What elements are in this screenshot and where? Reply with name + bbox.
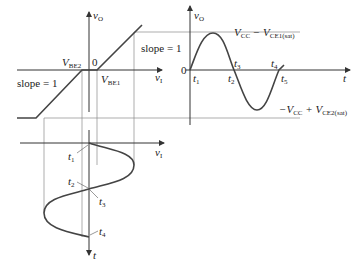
diagram-canvas [0,0,360,269]
transfer-origin-label: 0 [92,57,98,68]
slope-lower-label: slope = 1 [17,78,57,89]
output-vo-label: vO [194,10,204,23]
output-t-label: t [343,73,346,84]
output-t1-label: t1 [193,73,200,86]
slope-upper-label: slope = 1 [141,43,181,54]
input-t-axis-label: t [93,250,96,261]
output-waveform [190,33,284,110]
input-vi-label: vI [155,147,162,160]
output-t2-label: t2 [228,73,235,86]
transfer-vi-label: vI [155,72,162,85]
output-t5-label: t5 [281,73,288,86]
transfer-curve [17,25,142,118]
output-t4-label: t4 [271,58,278,71]
output-origin-label: 0 [181,65,187,76]
vbe2-label: VBE2 [62,57,81,70]
input-t4-label: t4 [99,226,106,239]
class-b-waveform-diagram: vO 0 VBE2 VBE1 vI slope = 1 slope = 1 vO… [0,0,360,269]
pos-saturation-label: VCC − VCE1(sat) [234,27,295,40]
input-t3-label: t3 [99,196,106,209]
input-axes [20,130,164,255]
projection-guides [44,32,300,237]
input-t2-label: t2 [68,176,75,189]
neg-saturation-label: −VCC + VCE2(sat) [279,104,347,117]
transfer-vo-label: vO [93,10,103,23]
vbe1-label: VBE1 [101,74,120,87]
output-t3-label: t3 [234,58,241,71]
input-t1-label: t1 [68,151,75,164]
